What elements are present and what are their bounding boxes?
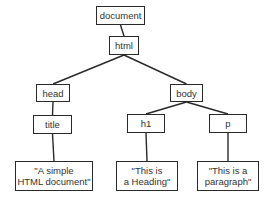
node-head: head (36, 84, 70, 102)
node-text-h1: "This is a Heading" (116, 161, 178, 191)
edge-document-html (121, 25, 125, 36)
edge-head-title (53, 102, 54, 115)
node-title: title (33, 115, 72, 134)
node-text-title: "A simple HTML document" (15, 161, 93, 191)
node-text-p: "This is a paragraph" (197, 161, 259, 191)
node-body: body (170, 84, 203, 102)
node-h1: h1 (127, 114, 165, 133)
edge-body-p (187, 102, 229, 114)
edge-title-text_title (53, 134, 55, 161)
node-document: document (96, 6, 145, 25)
edge-h1-text_h1 (146, 133, 147, 161)
edge-html-body (124, 55, 187, 84)
dom-tree-diagram: document html head body title h1 p "A si… (0, 0, 270, 203)
edge-html-head (53, 55, 124, 84)
node-html: html (109, 36, 139, 55)
node-p: p (209, 114, 247, 133)
edge-body-h1 (146, 102, 187, 114)
